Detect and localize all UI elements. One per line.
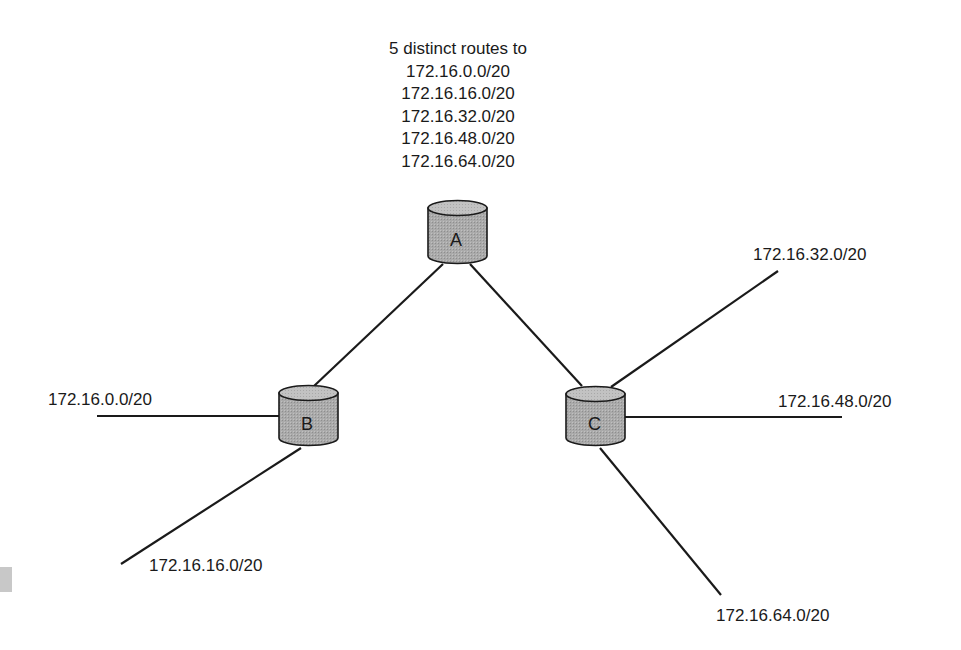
route-entry: 172.16.32.0/20 bbox=[368, 106, 548, 129]
link-c-network-lower bbox=[600, 448, 721, 595]
link-c-network-upper bbox=[611, 271, 778, 387]
network-label-c-right: 172.16.48.0/20 bbox=[778, 392, 891, 412]
scan-artifact bbox=[0, 567, 12, 592]
route-summary-title: 5 distinct routes to bbox=[368, 38, 548, 61]
network-label-c-upper: 172.16.32.0/20 bbox=[753, 245, 866, 265]
network-diagram: A B C 5 distinct routes to 172.16.0.0/20… bbox=[0, 0, 961, 650]
router-a-label: A bbox=[450, 230, 462, 250]
link-b-network-bottom bbox=[121, 448, 301, 564]
route-entry: 172.16.64.0/20 bbox=[368, 151, 548, 174]
network-label-c-lower: 172.16.64.0/20 bbox=[716, 606, 829, 626]
route-entry: 172.16.0.0/20 bbox=[368, 61, 548, 84]
link-a-b bbox=[314, 264, 443, 386]
router-c-label: C bbox=[588, 414, 601, 434]
network-label-b-left: 172.16.0.0/20 bbox=[48, 390, 152, 410]
route-entry: 172.16.48.0/20 bbox=[368, 128, 548, 151]
link-a-c bbox=[470, 264, 582, 386]
route-entry: 172.16.16.0/20 bbox=[368, 83, 548, 106]
router-b-label: B bbox=[301, 414, 313, 434]
network-label-b-bottom: 172.16.16.0/20 bbox=[149, 556, 262, 576]
route-summary-annotation: 5 distinct routes to 172.16.0.0/20 172.1… bbox=[368, 38, 548, 173]
